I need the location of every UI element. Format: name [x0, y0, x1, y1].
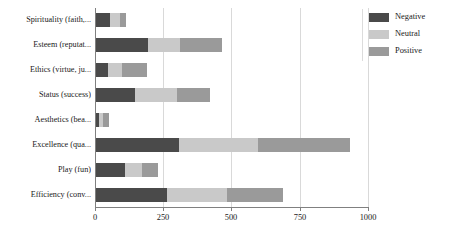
bar-segment-neutral[interactable] [179, 138, 258, 152]
bar-row[interactable] [95, 88, 210, 102]
x-tick-1000 [368, 207, 369, 211]
bar-segment-positive[interactable] [120, 13, 126, 27]
y-axis-label: Esteem (reputat... [3, 40, 91, 50]
bar-row[interactable] [95, 63, 147, 77]
x-tick-250 [163, 207, 164, 211]
bar-segment-positive[interactable] [227, 188, 283, 202]
y-axis-labels: Spirituality (faith,...Esteem (reputat..… [0, 8, 91, 207]
bar-row[interactable] [95, 113, 109, 127]
x-tick-label-500: 500 [211, 212, 251, 223]
chart-legend: Negative Neutral Positive [362, 9, 448, 60]
bar-segment-neutral[interactable] [167, 188, 227, 202]
x-tick-label-0: 0 [75, 212, 115, 223]
x-tick-750 [300, 207, 301, 211]
plot-area [95, 8, 368, 207]
bar-segment-negative[interactable] [95, 188, 167, 202]
legend-swatch-positive [369, 47, 389, 56]
bar-segment-negative[interactable] [95, 163, 125, 177]
bar-row[interactable] [95, 163, 158, 177]
legend-swatch-neutral [369, 30, 389, 39]
x-tick-500 [231, 207, 232, 211]
bar-segment-negative[interactable] [95, 138, 179, 152]
legend-divider [362, 9, 363, 61]
bar-segment-negative[interactable] [95, 88, 135, 102]
legend-swatch-negative [369, 13, 389, 22]
bar-row[interactable] [95, 13, 126, 27]
y-axis-label: Play (fun) [3, 165, 91, 175]
gridline-750 [300, 8, 301, 207]
bar-segment-positive[interactable] [103, 113, 109, 127]
bar-row[interactable] [95, 188, 283, 202]
legend-item-neutral[interactable]: Neutral [362, 26, 448, 42]
x-axis-line [95, 207, 369, 208]
x-tick-label-250: 250 [143, 212, 183, 223]
bar-segment-neutral[interactable] [108, 63, 122, 77]
x-tick-label-750: 750 [280, 212, 320, 223]
legend-label-negative: Negative [395, 12, 425, 22]
stacked-bar-chart: Spirituality (faith,...Esteem (reputat..… [0, 0, 449, 235]
bar-segment-negative[interactable] [95, 13, 110, 27]
legend-label-neutral: Neutral [395, 29, 420, 39]
y-axis-label: Ethics (virtue, ju... [3, 65, 91, 75]
bar-row[interactable] [95, 38, 222, 52]
bar-segment-neutral[interactable] [110, 13, 120, 27]
gridline-500 [231, 8, 232, 207]
bar-segment-positive[interactable] [122, 63, 147, 77]
legend-item-positive[interactable]: Positive [362, 43, 448, 59]
bar-segment-negative[interactable] [95, 63, 108, 77]
bar-segment-positive[interactable] [177, 88, 210, 102]
y-axis-label: Spirituality (faith,... [3, 15, 91, 25]
bar-segment-neutral[interactable] [148, 38, 180, 52]
x-tick-0 [95, 207, 96, 211]
bar-segment-neutral[interactable] [125, 163, 142, 177]
y-axis-label: Efficiency (conv... [3, 190, 91, 200]
bar-segment-negative[interactable] [95, 38, 148, 52]
x-tick-label-1000: 1000 [348, 212, 388, 223]
bar-segment-neutral[interactable] [135, 88, 177, 102]
bar-segment-positive[interactable] [258, 138, 350, 152]
legend-label-positive: Positive [395, 46, 422, 56]
legend-item-negative[interactable]: Negative [362, 9, 448, 25]
bar-segment-positive[interactable] [180, 38, 222, 52]
y-axis-label: Excellence (qua... [3, 140, 91, 150]
bar-row[interactable] [95, 138, 350, 152]
y-axis-label: Status (success) [3, 90, 91, 100]
y-axis-line [95, 8, 96, 207]
bar-segment-positive[interactable] [142, 163, 158, 177]
y-axis-label: Aesthetics (bea... [3, 115, 91, 125]
